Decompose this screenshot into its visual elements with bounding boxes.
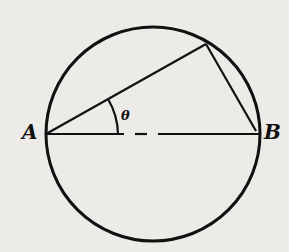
angle-arc [108, 99, 118, 134]
circle-diagram [0, 0, 289, 252]
point-a-label: A [22, 122, 38, 142]
point-b-label: B [264, 122, 281, 142]
diagram-canvas: A B θ [0, 0, 289, 252]
theta-label: θ [121, 109, 130, 122]
